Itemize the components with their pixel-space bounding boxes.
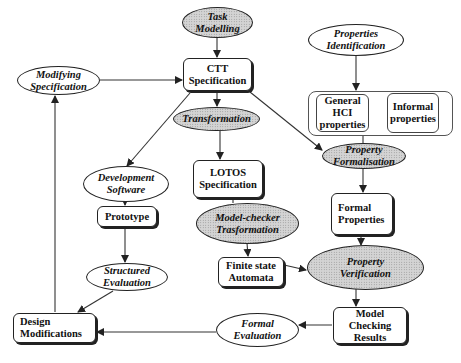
node-prototype: Prototype bbox=[97, 206, 157, 227]
node-label: LOTOS Specification bbox=[199, 167, 257, 191]
node-property-verification: Property Verification bbox=[307, 245, 424, 290]
node-label: CTT Specification bbox=[189, 63, 247, 87]
node-transformation: Transformation bbox=[173, 107, 260, 131]
node-label: Informal properties bbox=[390, 101, 436, 125]
node-label: Properties Identification bbox=[327, 28, 386, 52]
node-design-modifications: Design Modifications bbox=[13, 313, 96, 343]
edge-fsa-to-propverif bbox=[284, 265, 306, 270]
node-label: Finite state Automata bbox=[226, 260, 276, 284]
node-ctt-specification: CTT Specification bbox=[183, 58, 252, 91]
node-label: General HCI properties bbox=[320, 95, 366, 131]
node-modifying-specification: Modifying Specification bbox=[17, 66, 100, 95]
node-label: Prototype bbox=[105, 211, 149, 223]
node-label: Modifying Specification bbox=[30, 69, 87, 93]
node-label: Formal Properties bbox=[338, 202, 384, 226]
edge-ctt-to-devsoftware bbox=[127, 93, 190, 166]
node-model-checker-transformation: Model-checker Trasformation bbox=[196, 203, 299, 244]
node-label: Formal Evaluation bbox=[234, 318, 282, 342]
node-formal-evaluation: Formal Evaluation bbox=[216, 313, 299, 347]
node-label: Design Modifications bbox=[20, 316, 82, 340]
edge-structeval-to-designmods bbox=[78, 291, 113, 312]
node-label: Model Checking Results bbox=[334, 308, 406, 344]
node-label: Development Software bbox=[98, 172, 155, 196]
node-task-modelling: Task Modelling bbox=[182, 7, 253, 38]
node-label: Structured Evaluation bbox=[103, 265, 151, 289]
diagram-canvas: Task Modelling CTT Specification Modifyi… bbox=[0, 0, 461, 363]
node-formal-properties: Formal Properties bbox=[331, 193, 393, 235]
node-label: Property Formalisation bbox=[333, 144, 395, 168]
node-properties-identification: Properties Identification bbox=[308, 24, 404, 56]
node-model-checking-results: Model Checking Results bbox=[333, 307, 407, 344]
node-general-hci-properties: General HCI properties bbox=[316, 94, 369, 132]
node-structured-evaluation: Structured Evaluation bbox=[86, 263, 168, 291]
node-label: Model-checker Trasformation bbox=[215, 212, 280, 236]
node-label: Task Modelling bbox=[195, 11, 239, 35]
node-finite-state-automata: Finite state Automata bbox=[218, 257, 284, 287]
node-label: Property Verification bbox=[340, 256, 391, 280]
node-property-formalisation: Property Formalisation bbox=[322, 143, 406, 169]
node-lotos-specification: LOTOS Specification bbox=[193, 160, 263, 198]
edge-mctransform-to-fsa bbox=[247, 243, 248, 256]
node-label: Transformation bbox=[182, 113, 250, 125]
node-development-software: Development Software bbox=[83, 166, 169, 202]
node-informal-properties: Informal properties bbox=[387, 93, 439, 133]
